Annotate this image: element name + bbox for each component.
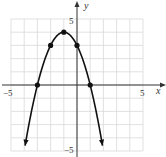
- data-point: [48, 43, 53, 48]
- y-max-tick-label: 5: [69, 16, 74, 26]
- data-point: [35, 82, 40, 87]
- x-min-tick-label: −5: [3, 88, 13, 98]
- x-axis-label: x: [155, 85, 161, 96]
- parabola-graph: x y −5 5 5 −5: [0, 0, 166, 157]
- data-point: [88, 82, 93, 87]
- x-max-tick-label: 5: [140, 88, 145, 98]
- y-min-tick-label: −5: [64, 145, 74, 155]
- y-axis-label: y: [83, 0, 89, 11]
- data-point: [74, 43, 79, 48]
- data-point: [61, 30, 66, 35]
